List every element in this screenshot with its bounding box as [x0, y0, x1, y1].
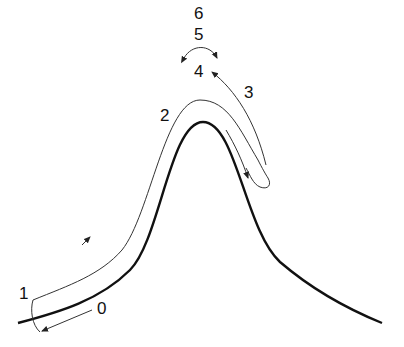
diagram-svg — [0, 0, 404, 347]
diagram-canvas: 0 1 2 3 4 5 6 — [0, 0, 404, 347]
ascent-arrow — [82, 237, 90, 245]
label-0: 0 — [97, 300, 106, 317]
arrow-3 — [212, 72, 266, 165]
trajectory-path — [33, 100, 268, 300]
trajectory-hook — [246, 168, 270, 188]
label-4: 4 — [194, 63, 203, 80]
label-6: 6 — [194, 5, 203, 22]
label-2: 2 — [160, 107, 169, 124]
label-1: 1 — [19, 285, 28, 302]
arrow-5-double — [184, 48, 217, 59]
label-3: 3 — [244, 84, 253, 101]
start-cap — [32, 300, 40, 332]
label-5: 5 — [194, 26, 203, 43]
main-curve — [18, 122, 382, 323]
